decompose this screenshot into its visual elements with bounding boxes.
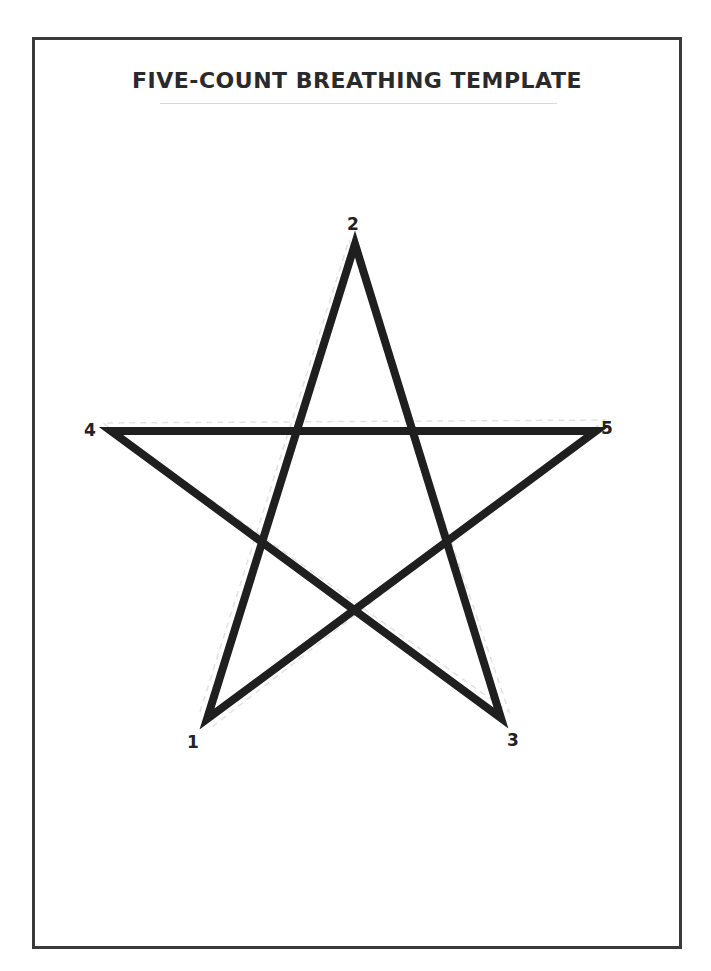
vertex-label-4: 4 [84, 420, 96, 440]
vertex-label-2: 2 [347, 214, 359, 234]
star-diagram: 1 2 3 4 5 [0, 0, 711, 971]
vertex-label-1: 1 [187, 732, 199, 752]
vertex-label-5: 5 [601, 418, 613, 438]
vertex-labels: 1 2 3 4 5 [84, 214, 613, 752]
vertex-label-3: 3 [507, 730, 519, 750]
star-path [111, 244, 596, 719]
